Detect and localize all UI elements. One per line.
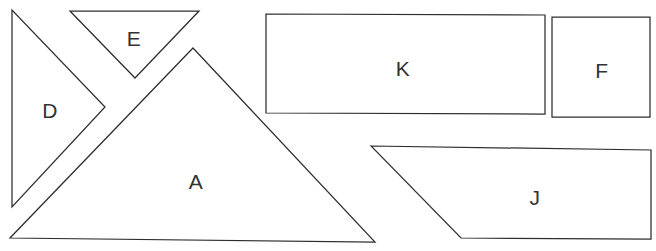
geometric-shapes-figure: D E A K F J [0,0,656,251]
shape-label-d: D [42,100,58,121]
shape-outline-j[interactable] [371,146,651,239]
shapes-canvas [0,0,656,251]
shape-label-f: F [595,60,608,81]
shape-label-e: E [127,28,142,49]
shape-label-j: J [530,187,541,208]
shape-label-k: K [396,58,411,79]
shape-label-a: A [189,171,204,192]
